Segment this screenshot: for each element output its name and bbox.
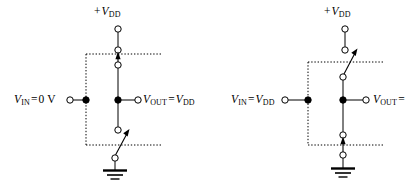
input-value-left: 0 V: [39, 93, 56, 105]
supply-prefix-left: +: [93, 5, 102, 17]
output-terminal-right: [363, 97, 369, 103]
circuit-diagram: [0, 0, 411, 187]
supply-label-left: +VDD: [93, 6, 121, 18]
nmos-contact-bottom-right: [340, 152, 346, 158]
supply-subscript-right: DD: [339, 10, 351, 19]
output-label-right: VOUT=: [373, 94, 406, 106]
supply-symbol-left: V: [102, 5, 109, 17]
circuit-right: [282, 26, 384, 177]
nmos-contact-top-left: [115, 127, 121, 133]
figure-canvas: +VDD VIN=0 V VOUT=VDD +VDD VIN=VDD VOUT=: [0, 0, 411, 187]
ground-symbol-right: [331, 169, 355, 178]
output-terminal-left: [135, 97, 141, 103]
input-subscript-right: IN: [238, 98, 247, 107]
input-operator-right: =: [247, 93, 256, 105]
pmos-contact-top-right: [342, 47, 348, 53]
input-operator-left: =: [30, 93, 39, 105]
pmos-blade-arrowhead-right: [351, 49, 357, 57]
input-label-left: VIN=0 V: [14, 94, 56, 106]
pmos-blade-right[interactable]: [344, 54, 355, 74]
output-subscript-left: OUT: [150, 98, 167, 107]
input-terminal-left: [67, 97, 73, 103]
supply-subscript-left: DD: [109, 10, 121, 19]
supply-label-right: +VDD: [323, 6, 351, 18]
pmos-contact-bottom-left: [115, 62, 121, 68]
output-operator-right: =: [397, 93, 406, 105]
supply-symbol-right: V: [332, 5, 339, 17]
pmos-contact-bottom-right: [340, 74, 346, 80]
input-label-right: VIN=VDD: [231, 94, 275, 106]
output-value-symbol-left: V: [176, 93, 183, 105]
supply-terminal-right: [342, 26, 348, 32]
nmos-blade-arrowhead-left: [123, 129, 129, 137]
output-subscript-right: OUT: [380, 98, 397, 107]
input-terminal-right: [282, 97, 288, 103]
input-subscript-left: IN: [21, 98, 30, 107]
input-value-subscript-right: DD: [263, 98, 275, 107]
supply-terminal-left: [115, 26, 121, 32]
input-value-symbol-right: V: [256, 93, 263, 105]
output-operator-left: =: [167, 93, 176, 105]
ground-symbol-left: [103, 171, 127, 180]
nmos-contact-bottom-left: [112, 155, 118, 161]
output-label-left: VOUT=VDD: [143, 94, 195, 106]
output-value-subscript-left: DD: [183, 98, 195, 107]
supply-prefix-right: +: [323, 5, 332, 17]
